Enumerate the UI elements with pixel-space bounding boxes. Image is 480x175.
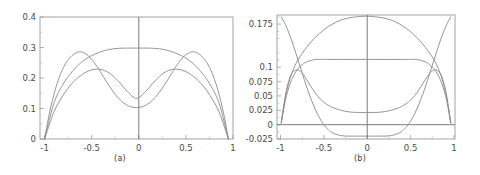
ytick-label: 0 xyxy=(31,134,36,144)
xtick-label: -1 xyxy=(276,143,284,153)
xtick-label: -1 xyxy=(40,143,48,153)
ytick-label: 0.2 xyxy=(22,73,36,83)
panel-a-caption: (a) xyxy=(0,154,240,163)
ytick-label: 0.025 xyxy=(249,105,273,115)
series-path-2 xyxy=(281,70,451,123)
plot-b-series xyxy=(281,16,451,136)
ytick-label: 0.4 xyxy=(22,12,36,22)
series-path-1 xyxy=(281,59,451,123)
ytick-label: 0 xyxy=(268,120,273,130)
panel-a: 0 0.1 0.2 0.3 0.4 -1 -0.5 0 xyxy=(0,0,240,175)
figure-container: 0 0.1 0.2 0.3 0.4 -1 -0.5 0 xyxy=(0,0,480,175)
plot-a-ytick-labels: 0 0.1 0.2 0.3 0.4 xyxy=(22,12,36,144)
plot-a-xtick-labels: -1 -0.5 0 0.5 1 xyxy=(40,143,235,153)
xtick-label: -0.5 xyxy=(316,143,333,153)
series-path-2 xyxy=(45,52,229,139)
plot-b-ytick-labels: -0.025 0 0.025 0.05 0.075 0.1 0.175 xyxy=(246,19,273,144)
plot-a-yticks xyxy=(40,17,44,139)
ytick-label: 0.1 xyxy=(259,62,273,72)
plot-a-frame xyxy=(40,17,233,139)
ytick-label: 0.3 xyxy=(22,43,36,53)
ytick-label: 0.075 xyxy=(249,77,273,87)
plot-a-series xyxy=(45,48,229,139)
ytick-label: -0.025 xyxy=(246,134,273,144)
plot-a: 0 0.1 0.2 0.3 0.4 -1 -0.5 0 xyxy=(0,0,240,175)
xtick-label: -0.5 xyxy=(83,143,100,153)
series-path-3 xyxy=(281,17,451,136)
xtick-label: 0.5 xyxy=(179,143,193,153)
xtick-label: 0 xyxy=(364,143,369,153)
xtick-label: 0.5 xyxy=(404,143,418,153)
xtick-label: 0 xyxy=(136,143,141,153)
xtick-label: 1 xyxy=(451,143,456,153)
series-path-0 xyxy=(281,16,451,123)
plot-b-yticks xyxy=(277,17,281,139)
series-path-0 xyxy=(45,48,229,139)
panel-b: -0.025 0 0.025 0.05 0.075 0.1 0.175 xyxy=(240,0,480,175)
ytick-label: 0.175 xyxy=(249,19,273,29)
ytick-label: 0.05 xyxy=(254,91,273,101)
xtick-label: 1 xyxy=(230,143,235,153)
panel-b-caption: (b) xyxy=(240,154,480,163)
plot-b-xtick-labels: -1 -0.5 0 0.5 1 xyxy=(276,143,456,153)
plot-b: -0.025 0 0.025 0.05 0.075 0.1 0.175 xyxy=(240,0,480,175)
series-path-1 xyxy=(45,69,229,139)
ytick-label: 0.1 xyxy=(22,104,36,114)
